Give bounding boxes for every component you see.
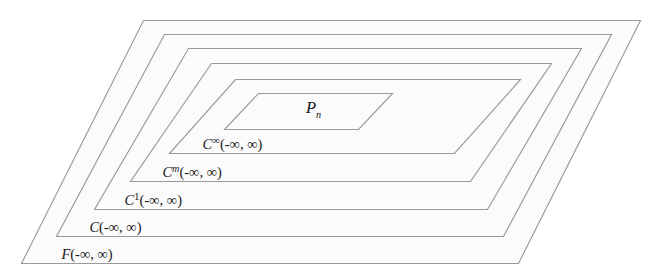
layer-label-Cm: Cm(-∞, ∞)	[137, 163, 240, 182]
layer-label-F-base: F	[60, 246, 70, 262]
layer-label-Pn-subscript: n	[316, 109, 321, 120]
layer-label-C1: C1(-∞, ∞)	[99, 190, 200, 210]
nested-function-spaces-figure: F(-∞, ∞) C(-∞, ∞) C1(-∞, ∞) Cm(-∞, ∞) C∞…	[0, 0, 649, 278]
layer-label-C1-argument: (-∞, ∞)	[140, 192, 183, 209]
layer-label-Cinf-superscript: ∞	[212, 134, 220, 146]
layer-label-Pn-base: P	[305, 98, 316, 117]
layer-label-C1-base: C	[124, 192, 134, 208]
layer-label-C: C(-∞, ∞)	[64, 219, 160, 236]
layer-label-Cinf-base: C	[202, 136, 212, 152]
diagram-canvas: F(-∞, ∞) C(-∞, ∞) C1(-∞, ∞) Cm(-∞, ∞) C∞…	[0, 0, 649, 278]
layer-label-Cm-superscript: m	[172, 163, 179, 174]
layer-label-Cinf: C∞(-∞, ∞)	[177, 134, 280, 154]
layer-label-C-base: C	[89, 219, 99, 235]
layer-label-F: F(-∞, ∞)	[36, 246, 131, 263]
layer-label-Cm-argument: (-∞, ∞)	[179, 164, 222, 181]
layer-label-Cinf-argument: (-∞, ∞)	[220, 136, 263, 153]
layer-label-Cm-base: C	[162, 164, 172, 180]
layer-label-F-argument: (-∞, ∞)	[70, 246, 113, 263]
layer-label-C-argument: (-∞, ∞)	[99, 219, 142, 236]
